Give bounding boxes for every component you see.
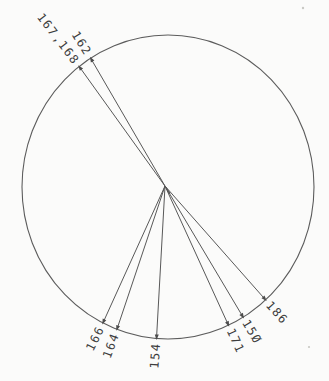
radius-line-5 (165, 186, 229, 325)
point-labels: 167,16816216616415417115Ø186 (34, 10, 291, 369)
point-label-154: 154 (147, 342, 163, 369)
radius-line-7 (165, 186, 266, 300)
arrow-head-0 (78, 65, 83, 71)
point-label-186: 186 (263, 298, 291, 327)
radius-line-6 (165, 186, 243, 317)
radius-line-1 (91, 58, 170, 194)
radius-line-2 (103, 186, 165, 323)
radius-line-0 (79, 66, 170, 193)
radius-lines (79, 58, 266, 338)
scan-speck (302, 7, 304, 9)
circle-outline (22, 35, 314, 339)
scan-speck (308, 346, 310, 348)
radial-chart: 167,16816216616415417115Ø186 (0, 0, 329, 381)
radial-chart-svg: 167,16816216616415417115Ø186 (0, 0, 329, 381)
